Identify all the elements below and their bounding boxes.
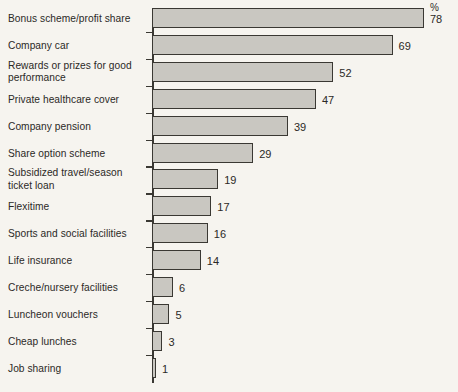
bar-value-label: 1: [162, 363, 168, 375]
bar-category-label: Company car: [8, 40, 148, 53]
bar-value-label: 47: [322, 94, 334, 106]
bar-row: Sports and social facilities16: [0, 220, 458, 248]
bar-value-label: 6: [179, 282, 185, 294]
bar-row: Rewards or prizes for good performance52: [0, 59, 458, 87]
bar: [152, 89, 316, 109]
bar-row: Flexitime17: [0, 193, 458, 221]
bar-category-label: Subsidized travel/season ticket loan: [8, 168, 148, 193]
bar-category-label: Creche/nursery facilities: [8, 282, 148, 295]
bar: [152, 250, 201, 270]
bar: [152, 223, 208, 243]
bar-row: Life insurance14: [0, 247, 458, 275]
bar-value-label: 5: [175, 309, 181, 321]
bar-category-label: Cheap lunches: [8, 336, 148, 349]
bar-category-label: Bonus scheme/profit share: [8, 13, 148, 26]
axis-tick: [146, 86, 153, 87]
bar-row: Creche/nursery facilities6: [0, 274, 458, 302]
axis-tick: [146, 193, 153, 194]
bar: [152, 196, 211, 216]
bar-value-label: 14: [207, 255, 219, 267]
bar-row: Subsidized travel/season ticket loan19: [0, 166, 458, 194]
bar: [152, 35, 393, 55]
bar-value-label: 17: [217, 201, 229, 213]
bar-value-label: 78: [430, 13, 442, 25]
bar: [152, 62, 333, 82]
axis-tick: [146, 301, 153, 302]
axis-tick: [146, 355, 153, 356]
bar-row: Cheap lunches3: [0, 328, 458, 356]
bar-category-label: Luncheon vouchers: [8, 309, 148, 322]
bar: [152, 116, 288, 136]
axis-tick: [146, 140, 153, 141]
bar-category-label: Rewards or prizes for good performance: [8, 60, 148, 85]
horizontal-bar-chart: % Bonus scheme/profit share78Company car…: [0, 0, 458, 392]
bar-value-label: 16: [214, 228, 226, 240]
bar-value-label: 69: [399, 40, 411, 52]
bar-row: Job sharing1: [0, 355, 458, 383]
bar-value-label: 19: [224, 174, 236, 186]
axis-tick: [146, 328, 153, 329]
bar: [152, 277, 173, 297]
axis-tick: [146, 32, 153, 33]
bar: [152, 143, 253, 163]
bar-value-label: 29: [259, 148, 271, 160]
bar-row: Private healthcare cover47: [0, 86, 458, 114]
bar-category-label: Private healthcare cover: [8, 93, 148, 106]
bar-row: Luncheon vouchers5: [0, 301, 458, 329]
axis-tick: [146, 166, 153, 167]
bar: [152, 358, 156, 378]
bar-value-label: 39: [294, 121, 306, 133]
bar-category-label: Company pension: [8, 120, 148, 133]
bar-value-label: 3: [168, 336, 174, 348]
bar: [152, 331, 162, 351]
bar-category-label: Job sharing: [8, 362, 148, 375]
bar: [152, 304, 169, 324]
bar-row: Company car69: [0, 32, 458, 60]
bar-category-label: Sports and social facilities: [8, 228, 148, 241]
axis-tick: [146, 274, 153, 275]
bar-value-label: 52: [339, 67, 351, 79]
bar: [152, 169, 218, 189]
axis-tick: [146, 59, 153, 60]
bar-row: Company pension39: [0, 113, 458, 141]
bar-category-label: Flexitime: [8, 201, 148, 214]
axis-tick: [146, 247, 153, 248]
bar-row: Bonus scheme/profit share78: [0, 5, 458, 33]
bar-category-label: Share option scheme: [8, 147, 148, 160]
bar-row: Share option scheme29: [0, 140, 458, 168]
bar: [152, 8, 424, 28]
bar-category-label: Life insurance: [8, 255, 148, 268]
axis-tick: [146, 220, 153, 221]
axis-tick: [146, 113, 153, 114]
